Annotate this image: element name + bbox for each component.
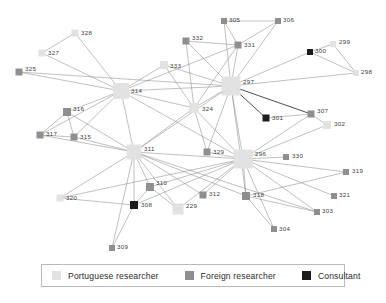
node-325[interactable] [16, 69, 23, 76]
legend-label-portuguese: Portuguese researcher [68, 271, 159, 281]
node-296[interactable] [234, 150, 253, 169]
edge-325-314 [19, 72, 121, 91]
edge-297-311 [134, 86, 231, 152]
node-304[interactable] [271, 226, 277, 232]
node-319[interactable] [343, 169, 349, 175]
node-label-298: 298 [361, 68, 373, 75]
node-label-317: 317 [46, 130, 58, 137]
node-label-306: 306 [283, 16, 295, 23]
portuguese-swatch [52, 271, 61, 280]
edge-311-296 [134, 152, 243, 159]
node-330[interactable] [283, 154, 289, 160]
edge-318-303 [246, 196, 317, 212]
node-label-layer: 3283273253053063323312993002983333142973… [25, 16, 373, 250]
node-303[interactable] [314, 209, 320, 215]
node-label-328: 328 [81, 29, 93, 36]
edge-314-311 [121, 91, 134, 152]
node-329[interactable] [204, 149, 211, 156]
node-label-333: 333 [170, 62, 182, 69]
node-311[interactable] [127, 145, 142, 160]
node-302[interactable] [323, 121, 331, 129]
node-318[interactable] [242, 192, 250, 200]
node-label-305: 305 [229, 16, 241, 23]
node-324[interactable] [189, 103, 199, 113]
network-figure: 3283273253053063323312993002983333142973… [0, 0, 386, 303]
node-label-299: 299 [339, 38, 351, 45]
edge-327-314 [42, 53, 121, 91]
edge-318-304 [246, 196, 274, 229]
node-316[interactable] [63, 108, 71, 116]
node-label-304: 304 [279, 225, 291, 232]
node-label-308: 308 [141, 201, 153, 208]
edge-300-298 [310, 52, 356, 73]
node-label-309: 309 [117, 243, 129, 250]
node-312[interactable] [200, 192, 207, 199]
legend-item-foreign: Foreign researcher [185, 271, 276, 281]
edge-311-309 [112, 152, 134, 248]
node-332[interactable] [183, 38, 190, 45]
edge-332-331 [186, 41, 238, 45]
edge-layer [19, 21, 356, 248]
legend-label-consultant: Consultant [318, 271, 361, 281]
node-label-311: 311 [144, 145, 155, 152]
node-label-330: 330 [292, 152, 304, 159]
node-label-297: 297 [243, 78, 255, 85]
foreign-swatch [185, 271, 194, 280]
edge-297-307 [231, 86, 311, 114]
node-label-300: 300 [315, 47, 327, 54]
node-309[interactable] [109, 245, 115, 251]
node-label-324: 324 [202, 105, 214, 112]
legend-item-consultant: Consultant [302, 271, 361, 281]
node-label-301: 301 [272, 114, 284, 121]
node-229[interactable] [173, 204, 184, 215]
node-320[interactable] [57, 195, 64, 202]
node-label-307: 307 [317, 107, 329, 114]
node-310[interactable] [146, 183, 154, 191]
node-328[interactable] [72, 30, 79, 37]
node-label-312: 312 [209, 190, 221, 197]
edge-311-312 [134, 152, 203, 195]
node-327[interactable] [39, 50, 46, 57]
node-315[interactable] [71, 134, 78, 141]
node-306[interactable] [275, 18, 281, 24]
legend-item-portuguese: Portuguese researcher [52, 271, 159, 281]
edge-314-317 [40, 91, 121, 135]
node-label-321: 321 [339, 191, 351, 198]
node-label-320: 320 [66, 194, 78, 201]
node-label-329: 329 [213, 148, 225, 155]
node-label-325: 325 [25, 65, 37, 72]
edge-296-308 [134, 159, 243, 205]
edge-328-314 [75, 33, 121, 91]
node-label-332: 332 [192, 34, 204, 41]
node-label-318: 318 [253, 191, 265, 198]
node-label-319: 319 [352, 167, 364, 174]
node-314[interactable] [113, 83, 129, 99]
node-label-310: 310 [156, 179, 168, 186]
legend: Portuguese researcher Foreign researcher… [41, 264, 345, 287]
edge-311-320 [60, 152, 134, 198]
edge-306-297 [231, 21, 278, 86]
node-305[interactable] [221, 18, 227, 24]
node-321[interactable] [331, 193, 337, 199]
node-label-331: 331 [244, 41, 256, 48]
edge-308-309 [112, 205, 134, 248]
node-297[interactable] [222, 77, 241, 96]
node-label-316: 316 [73, 105, 85, 112]
node-333[interactable] [160, 61, 168, 69]
edge-324-311 [134, 108, 194, 152]
consultant-swatch [302, 271, 311, 280]
node-307[interactable] [308, 111, 315, 118]
node-317[interactable] [37, 132, 44, 139]
node-label-327: 327 [48, 49, 60, 56]
node-308[interactable] [130, 201, 138, 209]
node-331[interactable] [235, 42, 242, 49]
node-300[interactable] [307, 49, 313, 55]
node-299[interactable] [330, 41, 336, 47]
node-label-302: 302 [334, 120, 346, 127]
node-301[interactable] [263, 115, 270, 122]
node-label-229: 229 [186, 202, 198, 209]
node-298[interactable] [353, 70, 359, 76]
edge-297-318 [231, 86, 246, 196]
network-graph: 3283273253053063323312993002983333142973… [0, 0, 386, 303]
edge-297-329 [207, 86, 231, 152]
